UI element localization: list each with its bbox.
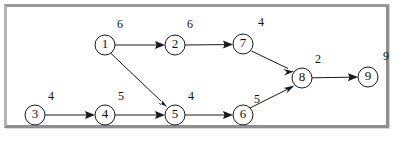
edge-5-to-6-weight: 4 — [188, 89, 194, 103]
node-8[interactable]: 8 — [292, 68, 312, 88]
edge-8-to-9: 2 — [312, 52, 358, 81]
node-3[interactable]: 3 — [25, 105, 45, 125]
edge-1-to-2-weight: 6 — [117, 17, 123, 31]
node-3-label: 3 — [32, 106, 39, 121]
edge-3-to-4-arrowhead — [85, 111, 95, 119]
node-6-label: 6 — [240, 106, 247, 121]
edges-layer: 6 6 4 2 4 — [45, 15, 358, 119]
node-1[interactable]: 1 — [95, 35, 115, 55]
edge-1-to-2-arrowhead — [155, 41, 165, 49]
node-2-label: 2 — [172, 36, 179, 51]
edge-3-to-4-weight: 4 — [48, 89, 54, 103]
node-9[interactable]: 9 — [358, 67, 378, 87]
node-9-label: 9 — [365, 68, 372, 83]
annotations-layer: 9 — [383, 49, 389, 63]
node-4[interactable]: 4 — [95, 105, 115, 125]
node-4-label: 4 — [102, 106, 109, 121]
edge-8-to-9-arrowhead — [348, 73, 358, 81]
edge-8-to-9-line — [312, 77, 351, 78]
edge-6-to-8: 5 — [250, 86, 295, 109]
graph-canvas: 6 6 4 2 4 — [0, 0, 401, 141]
edge-6-to-8-weight: 5 — [254, 92, 260, 106]
node-1-label: 1 — [102, 36, 109, 51]
node-5[interactable]: 5 — [165, 105, 185, 125]
edge-1-to-2: 6 — [115, 17, 165, 49]
node-5-label: 5 — [172, 106, 179, 121]
edge-7-to-8: 4 — [252, 15, 295, 76]
node-6[interactable]: 6 — [233, 105, 253, 125]
edge-7-to-8-weight: 4 — [258, 15, 264, 29]
nodes-layer: 1 2 3 4 5 6 7 8 — [25, 34, 378, 125]
edge-7-to-8-line — [252, 51, 289, 69]
edge-3-to-4: 4 — [45, 89, 95, 119]
edge-8-to-9-weight: 2 — [315, 52, 321, 66]
edge-5-to-6-arrowhead — [223, 111, 233, 119]
edge-6-to-8-arrowhead — [284, 86, 295, 94]
edge-1-to-5-arrowhead — [157, 101, 167, 108]
node-7[interactable]: 7 — [233, 34, 253, 54]
node-2[interactable]: 2 — [165, 35, 185, 55]
edge-4-to-5-weight: 5 — [118, 89, 124, 103]
edge-4-to-5-arrowhead — [155, 111, 165, 119]
edge-5-to-6: 4 — [185, 89, 233, 119]
node-9-outer-label: 9 — [383, 49, 389, 63]
edge-2-to-7-arrowhead — [223, 41, 233, 49]
edge-2-to-7-weight: 6 — [187, 17, 193, 31]
edge-4-to-5: 5 — [115, 89, 165, 119]
edge-2-to-7: 6 — [185, 17, 233, 49]
node-8-label: 8 — [299, 69, 306, 84]
node-7-label: 7 — [240, 35, 247, 50]
